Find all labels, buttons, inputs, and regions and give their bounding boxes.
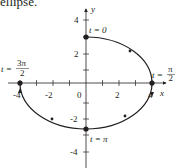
label-t0: t = 0 [89,25,107,35]
y-tick-label: -4 [70,147,78,157]
point-t-3pi-over-2 [17,80,22,85]
x-tick-label: 0 [77,90,82,100]
parametric-ellipse-chart: -4 -2 0 2 4 x 4 2 -2 -4 y t = 0 t = π 2 … [0,0,176,168]
arrow-marker [51,118,54,121]
y-tick-label: 2 [74,49,79,59]
label-t-pi-over-2-prefix: t = [152,70,163,80]
arrow-marker [129,50,132,53]
point-t-pi [83,126,88,131]
label-t-3pi-over-2-den: 2 [20,68,25,78]
point-t0 [83,34,88,39]
x-tick-label: 2 [115,90,120,100]
label-t-pi: t = π [90,134,108,144]
arrow-marker [124,115,127,118]
y-axis-label: y [90,4,95,14]
label-t-pi-over-2-den: 2 [169,73,174,83]
label-t-3pi-over-2-prefix: t = [1,64,12,74]
x-tick-label: -2 [45,90,53,100]
label-t-3pi-over-2-num: 3π [17,58,27,68]
y-tick-label: 4 [74,15,79,25]
y-tick-label: -2 [70,114,78,124]
point-t-pi-over-2 [149,80,154,85]
x-axis-label: x [159,88,164,98]
